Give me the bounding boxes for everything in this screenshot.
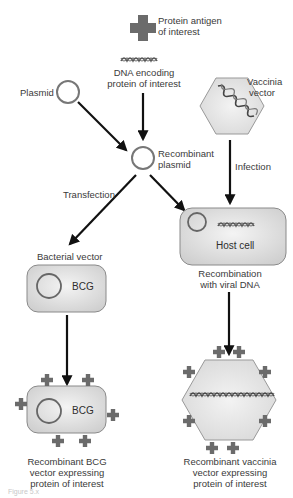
recombinant-bcg-box: [15, 374, 119, 447]
antigen-icon: [206, 442, 218, 454]
label-line: of interest: [158, 26, 222, 37]
recombinant-vaccinia-icon: [182, 346, 276, 454]
host-cell-box: [180, 208, 286, 265]
antigen-icon: [227, 442, 239, 454]
arrow-recomb-to-host: [150, 175, 184, 210]
antigen-icon: [233, 346, 245, 358]
label-line: with viral DNA: [192, 279, 268, 290]
dna-strand-icon: [121, 58, 157, 61]
label-line: Recombination: [192, 268, 268, 279]
plasmid-icon: [57, 81, 79, 103]
antigen-icon: [15, 398, 27, 410]
antigen-icon: [107, 409, 119, 421]
arrow-plasmid-to-recomb: [78, 102, 126, 150]
label-line: protein of interest: [106, 78, 182, 89]
label-line: Protein antigen: [158, 15, 222, 26]
label-line: plasmid: [158, 159, 214, 170]
recombination-label: Recombination with viral DNA: [192, 268, 268, 290]
recombinant-bcg-label: Recombinant BCG vector expressing protei…: [24, 456, 110, 489]
label-line: protein of interest: [181, 478, 279, 489]
recombinant-bcg-inner-label: BCG: [72, 405, 94, 416]
label-line: Recombinant BCG: [24, 456, 110, 467]
antigen-icon: [183, 366, 195, 378]
bcg-bacterial-box: [27, 265, 106, 312]
label-line: Recombinant vaccinia: [181, 456, 279, 467]
protein-antigen-icon: [130, 15, 156, 41]
figure-caption: Figure 5.x: [8, 488, 39, 495]
antigen-icon: [79, 435, 91, 447]
bcg-label: BCG: [72, 281, 94, 292]
recombinant-plasmid-label: Recombinant plasmid: [158, 148, 214, 170]
dna-encoding-label: DNA encoding protein of interest: [106, 67, 182, 89]
transfection-label: Transfection: [63, 189, 115, 200]
plasmid-label: Plasmid: [20, 87, 54, 98]
label-line: DNA encoding: [106, 67, 182, 78]
antigen-icon: [82, 374, 94, 386]
recombinant-plasmid-icon: [132, 147, 154, 169]
bacterial-vector-label: Bacterial vector: [37, 251, 102, 262]
label-line: vector expressing: [181, 467, 279, 478]
antigen-icon: [213, 346, 225, 358]
antigen-icon: [52, 435, 64, 447]
label-line: Recombinant: [158, 148, 214, 159]
vaccinia-vector-label: Vaccinia vector: [247, 76, 282, 98]
host-cell-label: Host cell: [216, 240, 254, 251]
label-line: Vaccinia: [247, 76, 282, 87]
infection-label: Infection: [235, 161, 271, 172]
recombinant-vaccinia-label: Recombinant vaccinia vector expressing p…: [181, 456, 279, 489]
protein-antigen-label: Protein antigen of interest: [158, 15, 222, 37]
label-line: vector: [247, 87, 282, 98]
antigen-icon: [41, 374, 53, 386]
label-line: vector expressing: [24, 467, 110, 478]
arrow-recomb-to-bacterial: [70, 175, 136, 244]
